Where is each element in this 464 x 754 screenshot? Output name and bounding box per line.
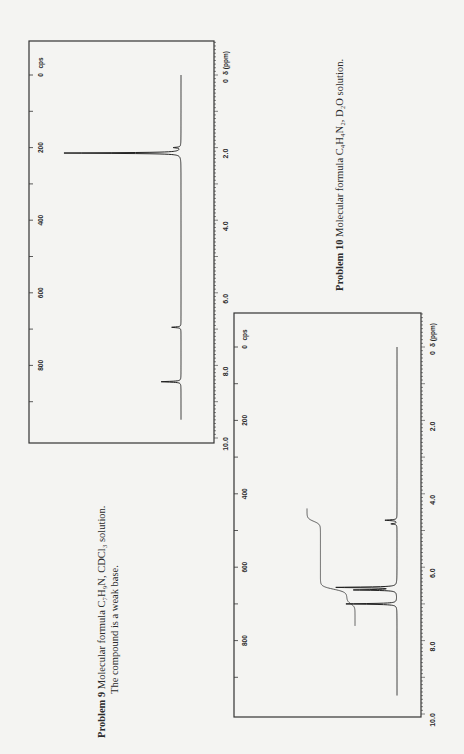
- caption-problem-10: Problem 10 Molecular formula C₄H₄N₂, D₂O…: [333, 59, 346, 291]
- ppm-tick-label: 2.0: [429, 421, 436, 431]
- cps-axis-unit-label: cps: [241, 329, 249, 341]
- cps-tick-label: 800: [241, 635, 248, 646]
- caption-problem-10-label: Problem 10: [334, 240, 345, 291]
- cps-tick-label: 0: [241, 345, 248, 349]
- caption-problem-9-label: Problem 9: [96, 692, 107, 738]
- ppm-tick-label: 0: [429, 351, 436, 355]
- ppm-axis-unit-label: δ (ppm): [429, 323, 437, 347]
- cps-tick-label: 400: [241, 488, 248, 499]
- cps-tick-label: 200: [241, 415, 248, 426]
- ppm-tick-label: 10.0: [429, 713, 436, 727]
- caption-problem-10-line1: Molecular formula C₄H₄N₂, D₂O solution.: [334, 59, 345, 237]
- cps-tick-label: 600: [241, 561, 248, 572]
- caption-problem-9: Problem 9 Molecular formula C₇H₉N, CDCl₃…: [95, 506, 121, 738]
- chart-frame: [234, 313, 421, 717]
- caption-problem-9-line1: Molecular formula C₇H₉N, CDCl₃ solution.: [96, 506, 107, 690]
- caption-problem-9-line2: The compound is a weak base.: [108, 506, 121, 738]
- ppm-tick-label: 6.0: [429, 568, 436, 578]
- ppm-tick-label: 4.0: [429, 495, 436, 505]
- spectrum-trace: [336, 347, 397, 695]
- integral-trace: [307, 508, 355, 625]
- ppm-tick-label: 8.0: [429, 642, 436, 652]
- textbook-page: 10.08.06.04.02.00δ (ppm)8006004002000cps…: [0, 0, 464, 754]
- nmr-chart-problem-10: 10.08.06.04.02.00δ (ppm)8006004002000cps: [0, 0, 464, 754]
